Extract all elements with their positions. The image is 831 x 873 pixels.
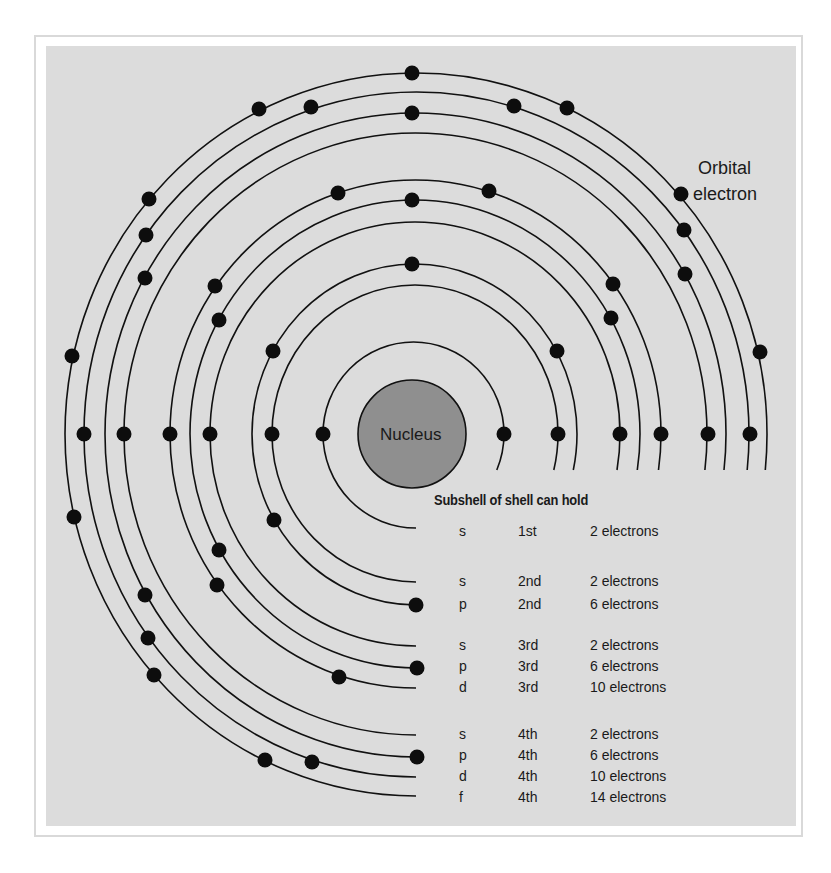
capacity-cell: 6 electrons	[590, 748, 658, 762]
subshell-cell: s	[459, 574, 466, 588]
electron-dot	[332, 670, 347, 685]
electron-dot	[654, 427, 669, 442]
table-header: Subshell of shell can hold	[434, 493, 588, 507]
shell-cell: 2nd	[518, 597, 541, 611]
capacity-cell: 10 electrons	[590, 769, 666, 783]
electron-dot	[331, 186, 346, 201]
electron-dot	[65, 349, 80, 364]
electron-dot	[77, 427, 92, 442]
capacity-cell: 14 electrons	[590, 790, 666, 804]
electron-dot	[212, 543, 227, 558]
shell-cell: 4th	[518, 748, 537, 762]
electron-dot	[678, 267, 693, 282]
subshell-cell: p	[459, 748, 467, 762]
electron-dot	[163, 427, 178, 442]
electron-dot	[142, 192, 157, 207]
shell-cell: 4th	[518, 790, 537, 804]
shell-cell: 3rd	[518, 638, 538, 652]
electron-dot	[117, 427, 132, 442]
electron-dot	[138, 271, 153, 286]
callout-line-2: electron	[693, 181, 757, 207]
capacity-cell: 10 electrons	[590, 680, 666, 694]
electron-dot	[409, 598, 424, 613]
capacity-cell: 2 electrons	[590, 574, 658, 588]
electron-dot	[265, 427, 280, 442]
electron-dot	[405, 257, 420, 272]
subshell-cell: s	[459, 524, 466, 538]
callout-line-1: Orbital	[696, 155, 757, 181]
electron-dot	[743, 427, 758, 442]
electron-dot	[405, 66, 420, 81]
electron-dot	[507, 99, 522, 114]
electron-dot	[138, 588, 153, 603]
electron-dot	[252, 102, 267, 117]
electron-dot	[613, 427, 628, 442]
electron-dot	[203, 427, 218, 442]
electron-dot	[497, 427, 512, 442]
electron-dot	[604, 311, 619, 326]
electron-dot	[210, 578, 225, 593]
electron-dot	[304, 100, 319, 115]
electron-dot	[141, 631, 156, 646]
shell-cell: 3rd	[518, 680, 538, 694]
electron-dot	[674, 187, 689, 202]
electron-dot	[550, 344, 565, 359]
shell-cell: 3rd	[518, 659, 538, 673]
electron-dot	[410, 750, 425, 765]
electron-dot	[305, 755, 320, 770]
subshell-cell: d	[459, 680, 467, 694]
electron-dot	[208, 279, 223, 294]
electron-dot	[147, 668, 162, 683]
capacity-cell: 6 electrons	[590, 597, 658, 611]
shell-cell: 4th	[518, 769, 537, 783]
electron-dot	[266, 344, 281, 359]
electron-dot	[67, 510, 82, 525]
subshell-cell: p	[459, 659, 467, 673]
shell-cell: 2nd	[518, 574, 541, 588]
electron-dot	[316, 427, 331, 442]
electron-dot	[482, 184, 497, 199]
electron-dot	[405, 193, 420, 208]
orbital-electron-callout: Orbital electron	[696, 155, 757, 207]
electron-dot	[560, 101, 575, 116]
subshell-cell: f	[459, 790, 463, 804]
electron-dot	[212, 313, 227, 328]
electron-dot	[677, 223, 692, 238]
electron-dot	[258, 753, 273, 768]
subshell-cell: p	[459, 597, 467, 611]
electron-dot	[753, 345, 768, 360]
electron-dot	[267, 513, 282, 528]
capacity-cell: 2 electrons	[590, 524, 658, 538]
electron-dot	[606, 277, 621, 292]
capacity-cell: 2 electrons	[590, 638, 658, 652]
nucleus-label: Nucleus	[380, 426, 441, 443]
subshell-cell: s	[459, 727, 466, 741]
electron-dot	[410, 661, 425, 676]
shell-cell: 4th	[518, 727, 537, 741]
subshell-cell: s	[459, 638, 466, 652]
capacity-cell: 6 electrons	[590, 659, 658, 673]
shell-cell: 1st	[518, 524, 537, 538]
electron-dot	[139, 228, 154, 243]
capacity-cell: 2 electrons	[590, 727, 658, 741]
subshell-cell: d	[459, 769, 467, 783]
electron-dot	[551, 427, 566, 442]
electron-dot	[701, 427, 716, 442]
electron-dot	[405, 106, 420, 121]
